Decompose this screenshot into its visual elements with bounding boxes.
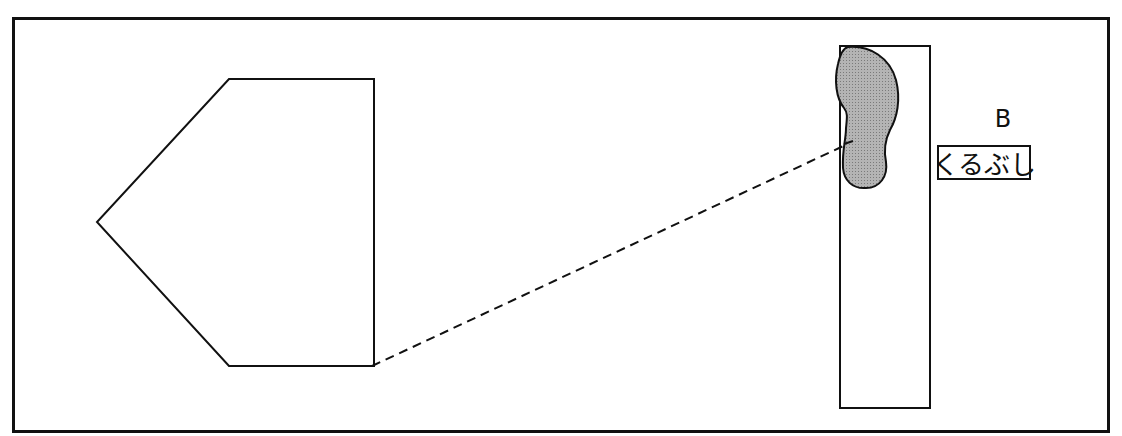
point-label-box: くるぶし xyxy=(937,145,1031,180)
outer-frame xyxy=(14,19,1109,432)
pentagon-shape xyxy=(97,79,374,366)
dashed-connector-line xyxy=(372,142,852,366)
footprint-shape xyxy=(836,47,898,188)
point-label-text: くるぶし xyxy=(933,144,1036,181)
point-label-letter: B xyxy=(985,104,1021,134)
diagram-canvas xyxy=(0,0,1122,436)
